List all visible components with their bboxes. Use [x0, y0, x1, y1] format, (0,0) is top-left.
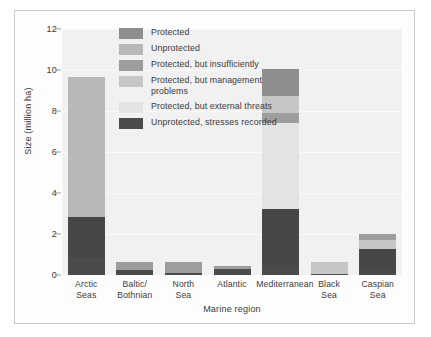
bar-segment: [214, 269, 251, 275]
y-axis-tick-mark: [56, 29, 61, 30]
bar-segment: [262, 209, 299, 266]
y-axis-tick-mark: [56, 193, 61, 194]
legend-swatch: [119, 118, 143, 129]
bar-segment: [68, 77, 105, 216]
legend-label: Protected, but external threats: [151, 101, 272, 112]
bar-segment: [165, 262, 202, 273]
bar-segment: [311, 274, 348, 275]
legend-swatch: [119, 76, 143, 87]
x-axis-tick-label: Baltic/Bothnian: [111, 279, 160, 300]
bar-stack: [359, 29, 396, 275]
bar-segment: [165, 273, 202, 275]
legend-label: Protected: [151, 27, 190, 38]
x-axis-tick-label: CaspianSea: [353, 279, 402, 300]
x-axis-tick-label-line: North: [159, 279, 208, 290]
bar-segment: [68, 258, 105, 275]
x-axis-tick-label-line: Seas: [62, 290, 111, 301]
x-axis-tick-label: NorthSea: [159, 279, 208, 300]
chart-figure: 024681012 Size (million ha) Marine regio…: [14, 10, 415, 324]
bar-segment: [116, 262, 153, 270]
bar-stack: [311, 29, 348, 275]
y-axis-tick-mark: [56, 70, 61, 71]
x-axis-tick-label-line: Mediterranean: [256, 279, 305, 290]
x-axis-tick-label-line: Atlantic: [208, 279, 257, 290]
bar-segment: [262, 123, 299, 209]
bar-segment: [359, 234, 396, 240]
bar-segment: [116, 270, 153, 275]
bar-stack: [68, 29, 105, 275]
legend-label: Protected, but management problems: [151, 75, 262, 96]
bar-segment: [359, 240, 396, 249]
legend-swatch: [119, 28, 143, 39]
x-axis-tick-label-line: Baltic/: [111, 279, 160, 290]
x-axis-tick-label-line: Bothnian: [111, 290, 160, 301]
bar-segment: [311, 262, 348, 274]
x-axis-tick-label-line: Black: [305, 279, 354, 290]
y-axis-tick-mark: [56, 111, 61, 112]
x-axis-tick-label: Mediterranean: [256, 279, 305, 290]
legend-label: Protected, but insufficiently: [151, 59, 259, 70]
bar-segment: [68, 217, 105, 258]
y-axis-tick-mark: [56, 275, 61, 276]
legend-label: Unprotected: [151, 43, 200, 54]
x-axis-tick-label-line: Caspian: [353, 279, 402, 290]
bar-segment: [214, 266, 251, 269]
x-axis-tick-label-line: Sea: [159, 290, 208, 301]
y-axis-title: Size (million ha): [23, 31, 33, 211]
legend-label: Unprotected, stresses recorded: [151, 117, 277, 128]
bar-segment: [359, 249, 396, 271]
x-axis-tick-label: ArcticSeas: [62, 279, 111, 300]
legend-swatch: [119, 102, 143, 113]
y-axis-tick-mark: [56, 234, 61, 235]
x-axis-tick-label-line: Arctic: [62, 279, 111, 290]
bar-segment: [359, 271, 396, 275]
x-axis-tick-label: BlackSea: [305, 279, 354, 300]
bar-stack: [262, 29, 299, 275]
bar-segment: [262, 267, 299, 275]
legend-swatch: [119, 60, 143, 71]
x-axis-tick-label: Atlantic: [208, 279, 257, 290]
y-axis-tick-mark: [56, 152, 61, 153]
x-axis-tick-label-line: Sea: [353, 290, 402, 301]
legend-swatch: [119, 44, 143, 55]
bar-segment: [262, 69, 299, 96]
x-axis-tick-label-line: Sea: [305, 290, 354, 301]
x-axis-title: Marine region: [62, 304, 402, 314]
